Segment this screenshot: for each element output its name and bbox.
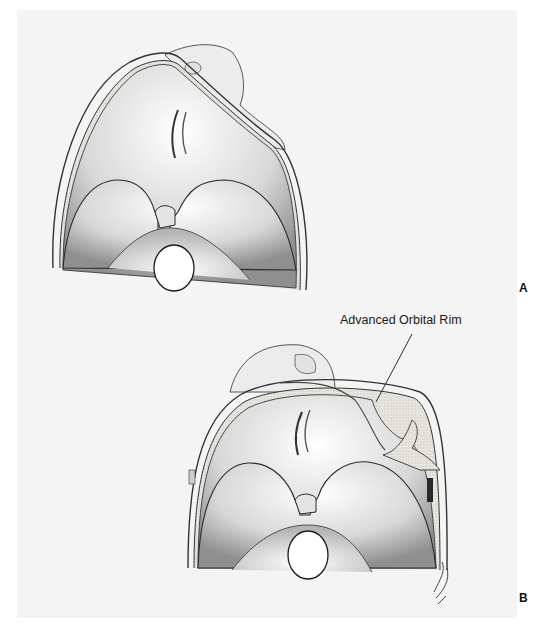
panel-a-drawing [53,45,307,291]
panel-label-b: B [519,591,528,605]
panel-label-a: A [519,281,528,295]
panel-b-drawing [188,334,448,604]
advanced-orbital-rim-label: Advanced Orbital Rim [340,313,462,327]
